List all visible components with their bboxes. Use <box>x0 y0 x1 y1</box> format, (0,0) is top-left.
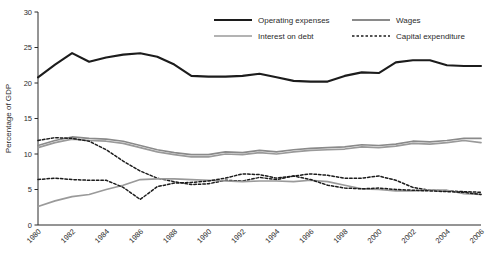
y-tick-label: 30 <box>24 8 32 17</box>
x-tick-label: 2000 <box>366 227 384 245</box>
series-line <box>38 179 481 207</box>
x-tick-label: 1990 <box>195 227 213 245</box>
series-line <box>38 174 481 200</box>
y-tick-label: 10 <box>24 150 32 159</box>
y-tick-label: 5 <box>28 185 32 194</box>
y-tick-label: 20 <box>24 79 32 88</box>
chart-series <box>38 53 481 206</box>
x-tick-label: 1994 <box>263 227 281 245</box>
x-tick-label: 2006 <box>468 227 486 245</box>
y-axis-label: Percentage of GDP <box>4 84 13 153</box>
legend-label: Interest on debt <box>258 32 314 41</box>
x-tick-label: 2002 <box>400 227 418 245</box>
y-tick-label: 0 <box>28 221 32 230</box>
legend-label: Capital expenditure <box>396 32 465 41</box>
series-line <box>38 53 481 81</box>
x-tick-label: 1982 <box>59 227 77 245</box>
x-tick-label: 1996 <box>297 227 315 245</box>
chart-container: Operating expensesWagesInterest on debtC… <box>0 0 486 266</box>
x-tick-label: 1992 <box>229 227 247 245</box>
x-tick-label: 2004 <box>434 227 452 245</box>
y-tick-label: 25 <box>24 43 32 52</box>
legend-label: Wages <box>396 16 421 25</box>
chart-tick-labels: 0510152025301980198219841986198819901992… <box>4 8 486 245</box>
x-tick-label: 1988 <box>161 227 179 245</box>
chart-legend: Operating expensesWagesInterest on debtC… <box>214 16 465 41</box>
series-line <box>38 138 481 193</box>
line-chart: Operating expensesWagesInterest on debtC… <box>0 0 486 266</box>
x-tick-label: 1986 <box>127 227 145 245</box>
y-tick-label: 15 <box>24 114 32 123</box>
x-tick-label: 1984 <box>93 227 111 245</box>
legend-label: Operating expenses <box>258 16 330 25</box>
chart-axes <box>35 12 482 225</box>
x-tick-label: 1998 <box>331 227 349 245</box>
